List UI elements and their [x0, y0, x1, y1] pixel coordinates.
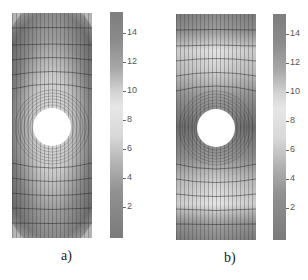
colorbar-tick-label: 10 — [290, 87, 300, 96]
tick-mark — [286, 121, 289, 122]
contour-plot-a — [12, 13, 92, 238]
colorbar-tick-label: 2 — [127, 202, 132, 211]
colorbar-a — [110, 12, 123, 238]
tick-mark — [286, 208, 289, 209]
tick-mark — [123, 207, 126, 208]
tick-mark — [123, 62, 126, 63]
colorbar-b — [273, 14, 286, 240]
colorbar-tick-label: 10 — [127, 86, 137, 95]
colorbar-tick-label: 6 — [127, 144, 132, 153]
colorbar-tick-label: 8 — [290, 116, 295, 125]
tick-mark — [123, 91, 126, 92]
tick-mark — [286, 34, 289, 35]
tick-mark — [286, 150, 289, 151]
colorbar-tick-label: 12 — [290, 58, 300, 67]
tick-mark — [123, 33, 126, 34]
colorbar-tick-label: 14 — [290, 29, 300, 38]
colorbar-tick-label: 12 — [127, 57, 137, 66]
colorbar-tick-label: 4 — [290, 174, 295, 183]
tick-mark — [123, 178, 126, 179]
panel-caption-a: a) — [61, 248, 72, 264]
tick-mark — [123, 120, 126, 121]
tick-mark — [123, 149, 126, 150]
tick-mark — [286, 92, 289, 93]
colorbar-tick-label: 14 — [127, 28, 137, 37]
colorbar-tick-label: 8 — [127, 115, 132, 124]
colorbar-tick-label: 4 — [127, 173, 132, 182]
tick-mark — [286, 179, 289, 180]
colorbar-tick-label: 2 — [290, 203, 295, 212]
tick-mark — [286, 63, 289, 64]
contour-plot-b — [176, 14, 256, 240]
colorbar-tick-label: 6 — [290, 145, 295, 154]
panel-caption-b: b) — [224, 250, 236, 266]
